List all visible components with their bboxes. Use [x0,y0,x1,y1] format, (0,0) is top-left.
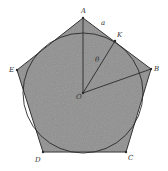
label-B: B [153,65,159,73]
label-D: D [34,156,41,164]
label-K: K [116,31,123,39]
label-A: A [80,7,86,15]
label-C: C [128,154,134,162]
label-E: E [8,66,14,74]
label-a: a [101,19,105,27]
label-O: O [76,93,82,101]
pentagon-diagram: A a K B C D E O θ [0,0,168,171]
